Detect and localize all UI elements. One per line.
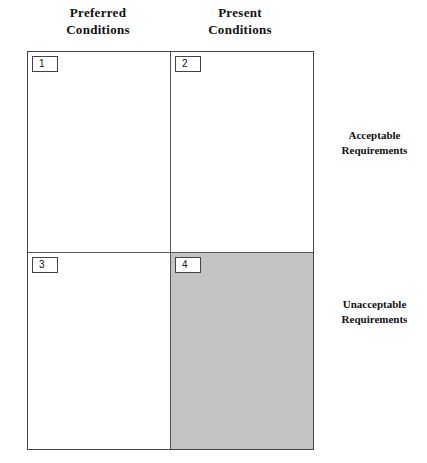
quadrant-3: 3 (28, 253, 171, 449)
column-header-line: Conditions (38, 21, 158, 38)
column-header-line: Present (180, 4, 300, 21)
column-header-line: Preferred (38, 4, 158, 21)
quadrant-number-label: 1 (32, 56, 58, 72)
quadrant-number-label: 3 (32, 257, 58, 273)
column-header-preferred: Preferred Conditions (38, 4, 158, 38)
column-header-present: Present Conditions (180, 4, 300, 38)
row-header-unacceptable: Unacceptable Requirements (322, 297, 427, 327)
row-header-line: Requirements (322, 143, 427, 158)
column-header-line: Conditions (180, 21, 300, 38)
row-header-line: Requirements (322, 312, 427, 327)
quadrant-1: 1 (28, 52, 171, 253)
quadrant-number-label: 4 (175, 257, 201, 273)
quadrant-4-shaded: 4 (171, 253, 313, 449)
row-header-acceptable: Acceptable Requirements (322, 128, 427, 158)
quadrant-grid: 1 2 3 4 (27, 51, 314, 450)
quadrant-2: 2 (171, 52, 313, 253)
quadrant-number-label: 2 (175, 56, 201, 72)
row-header-line: Acceptable (322, 128, 427, 143)
row-header-line: Unacceptable (322, 297, 427, 312)
